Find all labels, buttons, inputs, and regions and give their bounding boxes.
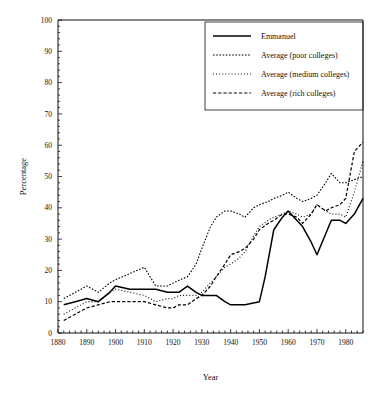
x-tick-label: 1910 bbox=[137, 338, 152, 347]
x-tick-label: 1880 bbox=[51, 338, 66, 347]
x-tick-label: 1950 bbox=[252, 338, 267, 347]
x-tick-label: 1890 bbox=[79, 338, 94, 347]
y-tick-label: 70 bbox=[45, 110, 53, 119]
series-line-average-poor-colleges bbox=[64, 173, 363, 298]
series-line-emmanuel bbox=[64, 198, 363, 304]
legend-label-1: Average (poor colleges) bbox=[261, 51, 338, 60]
x-tick-label: 1940 bbox=[223, 338, 238, 347]
x-tick-label: 1920 bbox=[166, 338, 181, 347]
line-chart: 0102030405060708090100188018901900191019… bbox=[0, 0, 383, 397]
legend-label-3: Average (rich colleges) bbox=[261, 89, 336, 98]
x-tick-label: 1900 bbox=[108, 338, 123, 347]
x-tick-label: 1960 bbox=[281, 338, 296, 347]
x-axis-label: Year bbox=[203, 372, 219, 382]
y-tick-label: 40 bbox=[45, 203, 53, 212]
y-tick-label: 60 bbox=[45, 141, 53, 150]
y-tick-label: 20 bbox=[45, 266, 53, 275]
y-tick-label: 30 bbox=[45, 235, 53, 244]
legend-label-2: Average (medium colleges) bbox=[261, 70, 350, 79]
x-tick-label: 1970 bbox=[309, 338, 324, 347]
x-tick-label: 1930 bbox=[194, 338, 209, 347]
y-tick-label: 90 bbox=[45, 47, 53, 56]
series-line-average-medium-colleges bbox=[64, 161, 363, 314]
legend-label-0: Emmanuel bbox=[261, 32, 296, 41]
y-tick-label: 100 bbox=[41, 16, 53, 25]
x-tick-label: 1980 bbox=[338, 338, 353, 347]
y-tick-label: 0 bbox=[48, 329, 52, 338]
y-tick-label: 50 bbox=[45, 172, 53, 181]
chart-figure: 0102030405060708090100188018901900191019… bbox=[0, 0, 383, 397]
y-axis-label: Percentage bbox=[18, 158, 28, 196]
y-tick-label: 10 bbox=[45, 297, 53, 306]
y-tick-label: 80 bbox=[45, 78, 53, 87]
